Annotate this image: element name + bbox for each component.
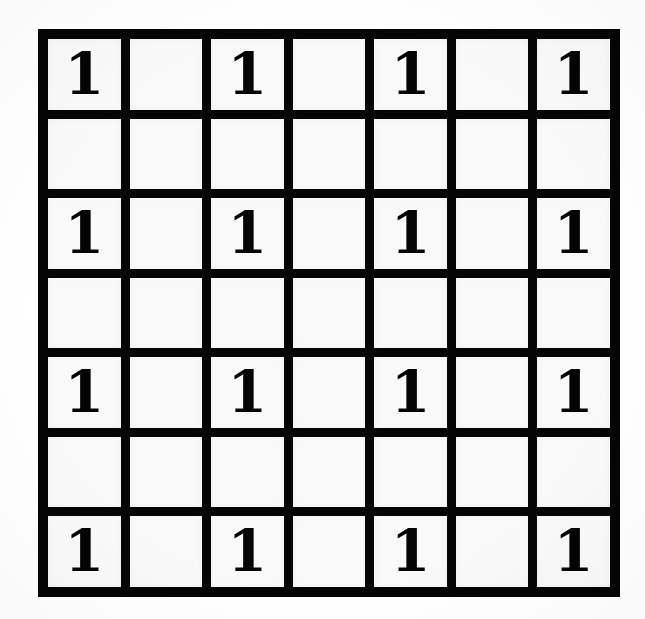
grid-cell[interactable]: [293, 437, 366, 508]
grid-cell[interactable]: [130, 437, 203, 508]
grid-cell[interactable]: 1: [211, 516, 284, 587]
grid-cell[interactable]: 1: [537, 516, 610, 587]
cell-value-one: 1: [554, 363, 594, 420]
grid-cell[interactable]: [130, 39, 203, 110]
grid-cell[interactable]: [48, 437, 121, 508]
cell-value-one: 1: [64, 363, 104, 420]
grid-cell[interactable]: [537, 119, 610, 190]
grid-cell[interactable]: [293, 278, 366, 349]
grid-cell[interactable]: [537, 278, 610, 349]
cell-value-one: 1: [391, 45, 431, 102]
grid-cell[interactable]: [456, 357, 529, 428]
grid-cell[interactable]: [211, 119, 284, 190]
grid-cell[interactable]: [293, 198, 366, 269]
grid-cell[interactable]: 1: [537, 39, 610, 110]
grid-cell[interactable]: [293, 357, 366, 428]
grid-cell[interactable]: [293, 119, 366, 190]
cell-value-one: 1: [228, 45, 268, 102]
grid-cell[interactable]: 1: [211, 39, 284, 110]
grid-cell[interactable]: [456, 39, 529, 110]
grid-cell[interactable]: 1: [211, 357, 284, 428]
grid-cell[interactable]: 1: [537, 198, 610, 269]
cell-value-one: 1: [391, 204, 431, 261]
grid-cell[interactable]: [374, 437, 447, 508]
grid-cell[interactable]: 1: [374, 516, 447, 587]
cell-value-one: 1: [64, 45, 104, 102]
grid-cell[interactable]: 1: [48, 39, 121, 110]
grid-cell[interactable]: [293, 516, 366, 587]
grid-cell[interactable]: [48, 119, 121, 190]
grid-table: 1111111111111111: [38, 29, 620, 597]
cell-value-one: 1: [228, 204, 268, 261]
grid-cell[interactable]: [130, 119, 203, 190]
cell-value-one: 1: [228, 522, 268, 579]
grid-cell[interactable]: [456, 516, 529, 587]
grid-cell[interactable]: [456, 119, 529, 190]
cell-value-one: 1: [228, 363, 268, 420]
grid-cell[interactable]: [374, 119, 447, 190]
grid-cell[interactable]: [537, 437, 610, 508]
grid-cell[interactable]: [130, 357, 203, 428]
grid-cell[interactable]: 1: [374, 198, 447, 269]
grid-cell[interactable]: [456, 278, 529, 349]
cell-value-one: 1: [554, 522, 594, 579]
cell-value-one: 1: [64, 522, 104, 579]
cell-value-one: 1: [64, 204, 104, 261]
grid-cell[interactable]: [130, 198, 203, 269]
grid-cell[interactable]: 1: [537, 357, 610, 428]
grid-cell[interactable]: 1: [48, 516, 121, 587]
cell-value-one: 1: [554, 204, 594, 261]
grid-cell[interactable]: [130, 516, 203, 587]
grid-cell[interactable]: [48, 278, 121, 349]
grid-cell[interactable]: 1: [374, 357, 447, 428]
grid-cell[interactable]: 1: [48, 357, 121, 428]
grid-cell[interactable]: 1: [48, 198, 121, 269]
grid-cell[interactable]: [293, 39, 366, 110]
cell-value-one: 1: [391, 522, 431, 579]
grid-cell[interactable]: [374, 278, 447, 349]
grid-cell[interactable]: [130, 278, 203, 349]
cell-value-one: 1: [554, 45, 594, 102]
grid-cell[interactable]: [456, 437, 529, 508]
grid-cell[interactable]: 1: [374, 39, 447, 110]
cell-value-one: 1: [391, 363, 431, 420]
grid-cell[interactable]: [211, 278, 284, 349]
grid-cell[interactable]: 1: [211, 198, 284, 269]
grid-cell[interactable]: [456, 198, 529, 269]
grid-cell[interactable]: [211, 437, 284, 508]
